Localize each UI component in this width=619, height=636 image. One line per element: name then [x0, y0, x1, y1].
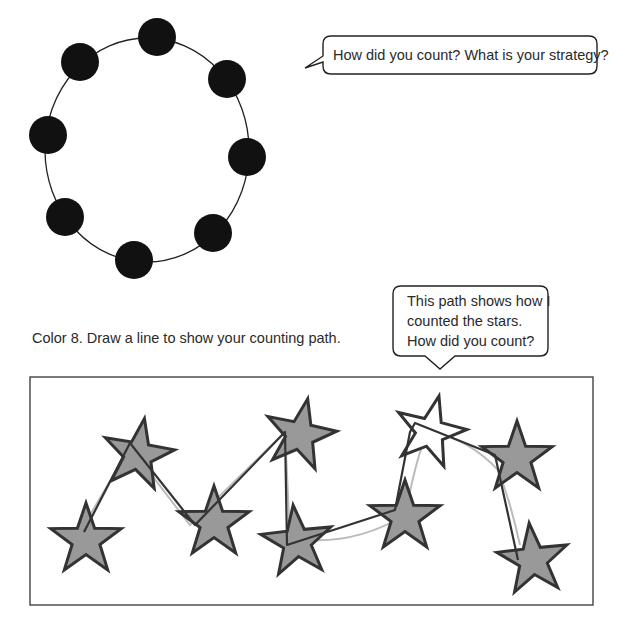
dot: [194, 214, 232, 252]
dots: [29, 18, 266, 279]
bubble-line: counted the stars.: [407, 311, 550, 331]
speech-bubble-2-text: This path shows how I counted the stars.…: [407, 291, 550, 351]
dot: [208, 60, 246, 98]
bubble-line: This path shows how I: [407, 291, 550, 311]
bubble-line: How did you count?: [407, 331, 550, 351]
dot: [115, 241, 153, 279]
dot: [29, 116, 67, 154]
dot: [46, 198, 84, 236]
stars-box: [30, 377, 593, 605]
instruction-text: Color 8. Draw a line to show your counti…: [32, 330, 341, 346]
dot: [138, 18, 176, 56]
speech-bubble-1-text: How did you count? What is your strategy…: [333, 45, 609, 65]
dot: [61, 43, 99, 81]
dot: [228, 138, 266, 176]
